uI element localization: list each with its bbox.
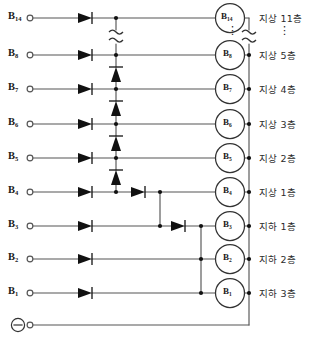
floor-label-b3: 지하 3층 xyxy=(259,286,296,300)
terminal-sub-b5: 5 xyxy=(15,155,18,162)
floor-label-5f: 지상 5층 xyxy=(259,48,296,62)
terminal-sub-b14: 14 xyxy=(15,15,22,22)
terminal-sub-b6: 6 xyxy=(15,121,18,128)
bell-label-b2: B2 xyxy=(223,252,232,262)
bell-ellipsis-icon: ⋮ xyxy=(227,29,238,32)
terminal-label-b4: B4 xyxy=(8,184,18,195)
terminal-label-b6: B6 xyxy=(8,116,18,127)
floor-label-3f: 지상 3층 xyxy=(259,117,296,131)
circuit-diagram: B14 B8 B7 B6 B5 B4 B3 B2 B1 B14 B8 B7 B6… xyxy=(0,0,313,337)
bell-label-b8: B8 xyxy=(223,48,232,58)
floor-label-b2: 지하 2층 xyxy=(259,252,296,266)
terminal-sub-b7: 7 xyxy=(15,86,18,93)
terminal-label-b8: B8 xyxy=(8,47,18,58)
bell-sub-b8: 8 xyxy=(229,53,232,59)
bell-sub-b3: 3 xyxy=(229,224,232,230)
bell-sub-b2: 2 xyxy=(229,257,232,263)
bell-label-b6: B6 xyxy=(223,117,232,127)
floor-label-4f: 지상 4층 xyxy=(259,82,296,96)
bell-sub-b7: 7 xyxy=(229,87,232,93)
terminal-label-b5: B5 xyxy=(8,150,18,161)
terminal-label-b1: B1 xyxy=(8,285,18,296)
bell-label-b5: B5 xyxy=(223,151,232,161)
bell-sub-b5: 5 xyxy=(229,156,232,162)
terminal-label-b14: B14 xyxy=(8,10,22,21)
left-terminal-group xyxy=(27,15,33,328)
negative-terminal-icon xyxy=(11,318,24,331)
bell-label-b14: B14 xyxy=(221,11,233,21)
bell-label-b3: B3 xyxy=(223,219,232,229)
cascade-diode-group xyxy=(131,186,185,232)
bell-label-b1: B1 xyxy=(223,286,232,296)
terminal-sub-b2: 2 xyxy=(15,256,18,263)
bell-label-b4: B4 xyxy=(223,185,232,195)
bell-label-b7: B7 xyxy=(223,82,232,92)
terminal-sub-b3: 3 xyxy=(15,223,18,230)
floor-ellipsis-icon: ⋮ xyxy=(279,29,290,32)
floor-label-11f: 지상 11층 xyxy=(259,11,302,25)
bell-sub-b4: 4 xyxy=(229,190,232,196)
floor-label-2f: 지상 2층 xyxy=(259,151,296,165)
bell-sub-b14: 14 xyxy=(227,16,233,22)
terminal-label-b7: B7 xyxy=(8,81,18,92)
terminal-sub-b8: 8 xyxy=(15,52,18,59)
row-diode-group xyxy=(78,12,92,299)
terminal-sub-b4: 4 xyxy=(15,189,18,196)
floor-label-1f: 지상 1층 xyxy=(259,185,296,199)
terminal-label-b3: B3 xyxy=(8,218,18,229)
terminal-label-b2: B2 xyxy=(8,251,18,262)
bell-sub-b6: 6 xyxy=(229,122,232,128)
floor-label-b1: 지하 1층 xyxy=(259,219,296,233)
bell-sub-b1: 1 xyxy=(229,291,232,297)
terminal-sub-b1: 1 xyxy=(15,290,18,297)
